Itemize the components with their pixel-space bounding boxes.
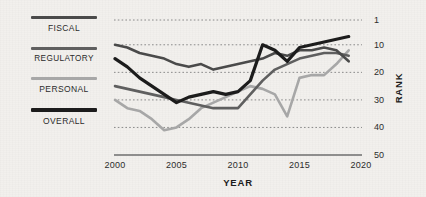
y-tick-40: 40 (374, 122, 384, 132)
plot-area (113, 14, 363, 156)
x-axis-title: YEAR (223, 177, 253, 188)
legend-label-fiscal: FISCAL (22, 23, 106, 33)
x-tick-2005: 2005 (166, 160, 187, 170)
legend-swatch-overall (31, 108, 97, 112)
legend-label-regulatory: REGULATORY (22, 54, 106, 63)
legend-item-fiscal[interactable]: FISCAL (22, 16, 106, 33)
legend-item-regulatory[interactable]: REGULATORY (22, 47, 106, 63)
series-line-fiscal (115, 45, 349, 70)
series-lines (115, 37, 349, 131)
legend-swatch-personal (31, 77, 97, 80)
legend-swatch-fiscal (31, 16, 97, 19)
x-tick-2010: 2010 (228, 160, 249, 170)
y-tick-20: 20 (374, 67, 384, 77)
legend-item-personal[interactable]: PERSONAL (22, 77, 106, 94)
y-tick-10: 10 (374, 40, 384, 50)
legend-label-personal: PERSONAL (22, 84, 106, 94)
rank-over-time-line-chart: FISCAL REGULATORY PERSONAL OVERALL 20002… (0, 0, 426, 197)
x-tick-2020: 2020 (351, 160, 372, 170)
y-tick-30: 30 (374, 95, 384, 105)
legend-swatch-regulatory (31, 47, 97, 50)
y-tick-50: 50 (374, 150, 384, 160)
legend-label-overall: OVERALL (22, 116, 106, 126)
chart-legend: FISCAL REGULATORY PERSONAL OVERALL (22, 16, 106, 140)
y-tick-1: 1 (374, 15, 379, 25)
x-tick-2015: 2015 (289, 160, 310, 170)
y-axis-title: RANK (393, 73, 404, 104)
x-tick-2000: 2000 (105, 160, 126, 170)
plot-svg (113, 14, 363, 156)
legend-item-overall[interactable]: OVERALL (22, 108, 106, 126)
series-line-personal (115, 50, 349, 130)
